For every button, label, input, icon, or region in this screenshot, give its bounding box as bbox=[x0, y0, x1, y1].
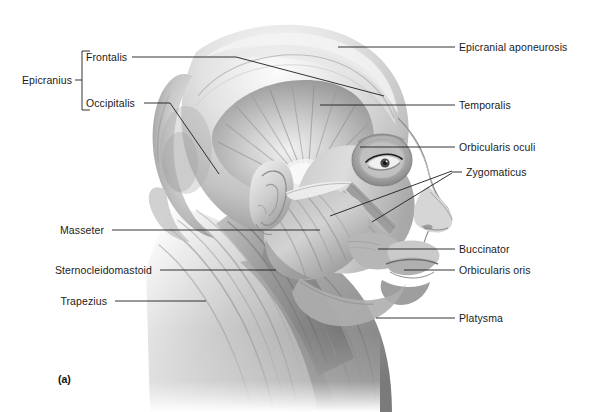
part-orbicularis-oris bbox=[381, 241, 440, 305]
label-trapezius: Trapezius bbox=[0, 295, 107, 307]
part-orbicularis-oculi bbox=[352, 134, 412, 186]
label-frontalis: Frontalis bbox=[86, 51, 127, 63]
label-zygomaticus: Zygomaticus bbox=[466, 166, 527, 178]
label-epicranial-aponeurosis: Epicranial aponeurosis bbox=[459, 41, 567, 53]
label-orbicularis-oculi: Orbicularis oculi bbox=[459, 141, 535, 153]
label-temporalis: Temporalis bbox=[459, 99, 511, 111]
label-epicranius: Epicranius bbox=[14, 74, 72, 86]
label-platysma: Platysma bbox=[459, 312, 503, 324]
anatomy-figure: Epicranius Frontalis Occipitalis Massete… bbox=[0, 0, 592, 412]
label-buccinator: Buccinator bbox=[459, 243, 510, 255]
label-orbicularis-oris: Orbicularis oris bbox=[459, 264, 531, 276]
label-sternocleidomastoid: Sternocleidomastoid bbox=[0, 264, 152, 276]
label-masseter: Masseter bbox=[0, 224, 104, 236]
figure-caption: (a) bbox=[58, 373, 71, 385]
part-nose bbox=[414, 186, 453, 233]
label-occipitalis: Occipitalis bbox=[86, 97, 135, 109]
